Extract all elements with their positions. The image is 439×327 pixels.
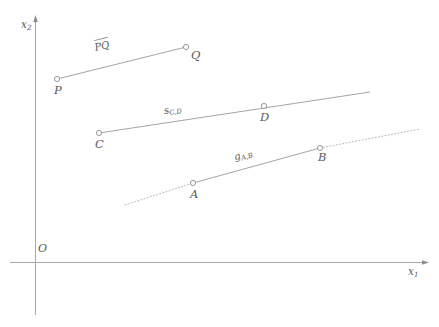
point-label-a: A	[190, 189, 198, 201]
axes-group	[10, 15, 429, 315]
line-cd-group	[96, 92, 370, 136]
x-axis-label: x1	[408, 266, 418, 278]
point-c-marker	[96, 130, 101, 135]
x-axis-label-subscript: 1	[414, 270, 419, 279]
point-d-marker	[261, 103, 266, 108]
line-label-cd: sC,D	[163, 103, 182, 117]
point-label-b: B	[318, 152, 326, 164]
point-p-marker	[54, 76, 59, 81]
point-q-marker	[183, 44, 188, 49]
point-a-marker	[190, 180, 195, 185]
y-axis-label-subscript: 2	[27, 23, 32, 32]
point-label-p: P	[54, 85, 62, 97]
line-ab-solid-middle	[193, 148, 320, 183]
line-ab-dotted-left	[125, 183, 193, 205]
segment-pq-line	[57, 47, 186, 79]
point-label-q: Q	[191, 50, 200, 62]
geometry-figure	[0, 0, 439, 327]
figure-canvas: x2 x1 O P Q C D A B PQ sC,D gA,B	[0, 0, 439, 327]
line-ab-group	[125, 129, 420, 205]
point-label-c: C	[95, 139, 104, 151]
segment-pq-group	[54, 44, 188, 81]
point-label-d: D	[260, 112, 269, 124]
origin-label: O	[38, 243, 47, 254]
line-ab-dotted-right	[320, 129, 420, 148]
y-axis-arrowhead	[33, 15, 38, 22]
line-cd-ray	[99, 92, 370, 133]
y-axis-label: x2	[21, 19, 31, 31]
x-axis-arrowhead	[422, 260, 429, 265]
